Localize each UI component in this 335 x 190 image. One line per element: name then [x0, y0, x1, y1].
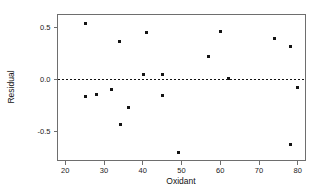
residual-scatter-figure: 0.50.0-0.5 20304050607080 Oxidant Residu… — [0, 0, 335, 190]
data-point — [161, 73, 164, 76]
scatter-plot-canvas: 0.50.0-0.5 20304050607080 Oxidant Residu… — [0, 0, 335, 190]
data-point — [110, 88, 113, 91]
plot-frame — [58, 15, 306, 161]
data-point — [95, 93, 98, 96]
data-point — [84, 22, 87, 25]
x-tick-label: 60 — [216, 166, 224, 175]
x-tick-label: 30 — [100, 166, 108, 175]
data-point — [207, 55, 210, 58]
x-tick-label: 20 — [61, 166, 69, 175]
data-point — [161, 94, 164, 97]
x-tick-label: 40 — [139, 166, 147, 175]
y-axis-ticks: 0.50.0-0.5 — [38, 23, 58, 136]
x-tick-label: 70 — [255, 166, 263, 175]
x-tick-label: 50 — [177, 166, 185, 175]
data-point — [227, 77, 230, 80]
y-tick-label: 0.0 — [40, 75, 50, 84]
x-axis-ticks: 20304050607080 — [61, 161, 302, 175]
plot-border — [58, 15, 306, 161]
y-tick-label: -0.5 — [38, 127, 51, 136]
data-point — [177, 151, 180, 154]
data-point — [289, 45, 292, 48]
data-point — [142, 73, 145, 76]
x-tick-label: 80 — [294, 166, 302, 175]
data-point — [273, 37, 276, 40]
y-tick-label: 0.5 — [40, 23, 50, 32]
data-point — [118, 40, 121, 43]
data-point — [84, 95, 87, 98]
data-point — [219, 30, 222, 33]
data-point — [296, 86, 299, 89]
data-point — [145, 31, 148, 34]
data-points — [84, 22, 300, 153]
data-point — [127, 106, 130, 109]
data-point — [289, 143, 292, 146]
y-axis-label: Residual — [6, 70, 16, 103]
x-axis-label: Oxidant — [166, 176, 196, 186]
data-point — [119, 123, 122, 126]
